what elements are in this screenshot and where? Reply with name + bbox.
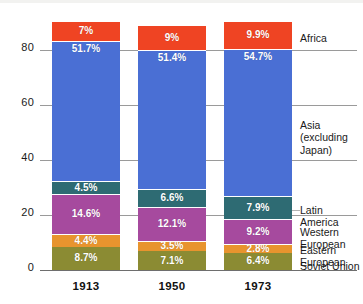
segment-1973-latin-america[interactable]: 7.9%: [224, 196, 292, 218]
segment-1973-eastern-european[interactable]: 2.8%: [224, 244, 292, 253]
segment-1913-africa[interactable]: 7%: [52, 21, 120, 41]
y-tick-label-40: 40: [0, 151, 34, 163]
x-axis-label-1973: 1973: [224, 280, 292, 292]
segment-1913-western-european[interactable]: 14.6%: [52, 194, 120, 234]
segment-value-label: 54.7%: [224, 52, 292, 62]
segment-1913-eastern-european[interactable]: 4.4%: [52, 234, 120, 247]
segment-value-label: 2.8%: [224, 244, 292, 253]
segment-1913-latin-america[interactable]: 4.5%: [52, 181, 120, 194]
segment-value-label: 4.5%: [52, 183, 120, 193]
y-tick-label-20: 20: [0, 206, 34, 218]
y-tick-label-0: 0: [0, 261, 34, 273]
y-tick-label-60: 60: [0, 96, 34, 108]
segment-1973-soviet-union[interactable]: 6.4%: [224, 253, 292, 270]
bar-1973[interactable]: 6.4% 2.8% 9.2% 7.9% 54.7% 9.9%: [224, 21, 292, 270]
segment-value-label: 9%: [138, 33, 206, 43]
segment-value-label: 8.7%: [52, 253, 120, 263]
segment-1973-asia-excluding-japan[interactable]: 54.7%: [224, 49, 292, 197]
segment-1973-western-european[interactable]: 9.2%: [224, 219, 292, 245]
segment-value-label: 14.6%: [52, 209, 120, 219]
segment-1913-asia-excluding-japan[interactable]: 51.7%: [52, 41, 120, 181]
stacked-bar-chart: 80 60 40 20 0 8.7% 4.4% 14.6% 4.5% 51.7%…: [0, 0, 363, 304]
segment-value-label: 51.4%: [138, 53, 206, 63]
segment-1950-soviet-union[interactable]: 7.1%: [138, 251, 206, 270]
x-axis-label-1913: 1913: [52, 280, 120, 292]
scan-edge-artifact: [0, 0, 363, 3]
segment-value-label: 4.4%: [52, 236, 120, 246]
segment-value-label: 7%: [52, 26, 120, 36]
segment-1950-western-european[interactable]: 12.1%: [138, 207, 206, 240]
segment-1913-soviet-union[interactable]: 8.7%: [52, 247, 120, 270]
leader-line-latin-america: [292, 210, 300, 211]
segment-value-label: 6.4%: [224, 256, 292, 266]
segment-1950-eastern-european[interactable]: 3.5%: [138, 241, 206, 251]
segment-value-label: 7.9%: [224, 203, 292, 213]
y-tick-label-80: 80: [0, 41, 34, 53]
category-label-soviet-union: Soviet Union: [300, 260, 360, 272]
segment-1950-latin-america[interactable]: 6.6%: [138, 189, 206, 208]
segment-value-label: 51.7%: [52, 44, 120, 54]
segment-value-label: 7.1%: [138, 256, 206, 266]
segment-1973-africa[interactable]: 9.9%: [224, 21, 292, 49]
segment-value-label: 9.9%: [224, 30, 292, 40]
segment-1950-asia-excluding-japan[interactable]: 51.4%: [138, 50, 206, 189]
bar-1950[interactable]: 7.1% 3.5% 12.1% 6.6% 51.4% 9%: [138, 25, 206, 270]
category-label-africa: Africa: [300, 32, 327, 44]
segment-value-label: 6.6%: [138, 193, 206, 203]
segment-value-label: 3.5%: [138, 241, 206, 251]
segment-1950-africa[interactable]: 9%: [138, 25, 206, 50]
bar-1913[interactable]: 8.7% 4.4% 14.6% 4.5% 51.7% 7%: [52, 21, 120, 270]
category-label-asia-excluding-japan: Asia (excluding Japan): [300, 119, 363, 156]
segment-value-label: 12.1%: [138, 219, 206, 229]
segment-value-label: 9.2%: [224, 227, 292, 237]
x-axis-label-1950: 1950: [138, 280, 206, 292]
